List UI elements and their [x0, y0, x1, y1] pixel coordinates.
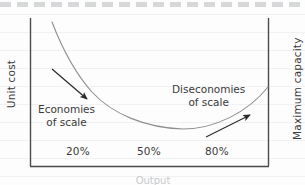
x-axis-label: Output: [120, 175, 186, 185]
economies-annotation-line1: Economies: [38, 103, 95, 116]
y-axis-right-label: Maximum capacity: [291, 48, 303, 140]
y-axis-left-label: Unit cost: [5, 54, 17, 114]
diseconomies-annotation-line1: Diseconomies: [172, 83, 245, 96]
economies-of-scale-annotation: Economies of scale: [38, 103, 95, 129]
economies-of-scale-arrow: [52, 69, 87, 99]
x-axis-tick-label-50: 50%: [132, 145, 166, 157]
chart-plot-area: [0, 0, 305, 185]
x-axis-tick-label-20: 20%: [61, 145, 95, 157]
diseconomies-of-scale-annotation: Diseconomies of scale: [172, 83, 245, 109]
x-axis-tick-label-80: 80%: [200, 145, 234, 157]
diseconomies-annotation-line2: of scale: [172, 96, 245, 109]
economies-annotation-line2: of scale: [38, 116, 95, 129]
unit-cost-chart-figure: Unit cost Maximum capacity Economies of …: [0, 0, 305, 185]
